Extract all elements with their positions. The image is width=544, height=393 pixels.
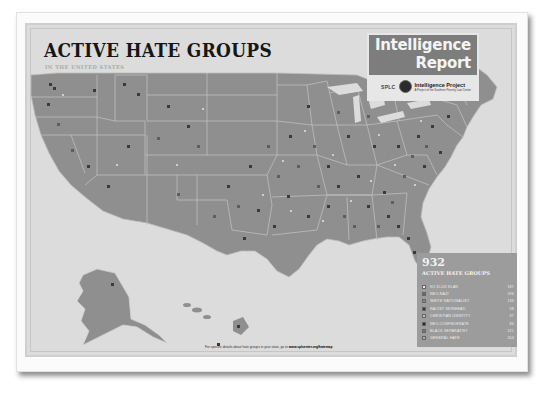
legend-item: GENERAL HATE204 <box>422 335 514 342</box>
splc-logo-icon <box>399 80 412 93</box>
square-icon <box>422 314 426 318</box>
square-icon <box>422 322 426 326</box>
intelligence-report-badge: Intelligence Report SPLC Intelligence Pr… <box>367 33 479 101</box>
legend-item: KU KLUX KLAN187 <box>422 283 514 290</box>
alaska-shape <box>77 269 167 345</box>
square-icon <box>422 307 426 311</box>
legend-item: NEO-CONFEDERATE86 <box>422 320 514 327</box>
legend-heading: ACTIVE HATE GROUPS <box>422 270 490 276</box>
badge-title-line1: Intelligence <box>375 36 471 54</box>
legend-item: RACIST SKINHEAD98 <box>422 305 514 312</box>
square-icon <box>422 292 426 296</box>
hatemap-link[interactable]: www.splcenter.org/hatemap <box>289 345 333 349</box>
klan-hood-icon <box>422 285 426 289</box>
legend-box: 932 ACTIVE HATE GROUPS KU KLUX KLAN187 N… <box>417 253 517 347</box>
poster-caption: For specific details about hate groups i… <box>205 345 332 349</box>
legend-item: NEO-NAZI196 <box>422 290 514 297</box>
poster-title: ACTIVE HATE GROUPS <box>44 41 272 62</box>
square-icon <box>422 329 426 333</box>
legend-total: 932 <box>422 256 445 269</box>
poster-subtitle: IN THE UNITED STATES <box>45 64 124 70</box>
square-icon <box>422 336 426 340</box>
legend-item: BLACK SEPARATIST121 <box>422 327 514 334</box>
project-subtitle: A Project of the Southern Poverty Law Ce… <box>415 88 471 92</box>
legend-list: KU KLUX KLAN187 NEO-NAZI196 WHITE NATION… <box>422 283 514 342</box>
legend-item: CHRISTIAN IDENTITY37 <box>422 313 514 320</box>
badge-title-line2: Report <box>415 54 471 72</box>
hawaii-shape <box>183 303 249 335</box>
legend-item: WHITE NATIONALIST136 <box>422 298 514 305</box>
square-icon <box>422 299 426 303</box>
poster-sheet: ACTIVE HATE GROUPS IN THE UNITED STATES … <box>16 12 528 372</box>
splc-label: SPLC <box>381 84 396 90</box>
poster-frame: ACTIVE HATE GROUPS IN THE UNITED STATES … <box>25 23 517 357</box>
